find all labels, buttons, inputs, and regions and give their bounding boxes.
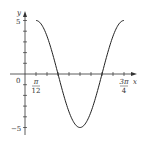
- svg-text:12: 12: [32, 87, 41, 95]
- svg-text:4: 4: [122, 87, 127, 95]
- x-tick-label-pi-12: π 12: [32, 78, 41, 95]
- y-tick-label-neg5: −5: [11, 125, 21, 133]
- svg-text:π: π: [33, 78, 39, 86]
- chart: y x 0 5 −5 π 12 3π 4: [0, 0, 144, 143]
- y-axis-arrow-icon: [23, 11, 27, 17]
- origin-label: 0: [16, 77, 20, 85]
- x-axis-arrow-icon: [131, 72, 137, 76]
- x-tick-label-3pi-4: 3π 4: [119, 78, 128, 95]
- svg-text:3π: 3π: [119, 78, 128, 86]
- axes: [10, 14, 134, 135]
- y-axis-label: y: [16, 9, 22, 17]
- y-tick-label-5: 5: [16, 18, 20, 26]
- x-axis-label: x: [133, 78, 137, 86]
